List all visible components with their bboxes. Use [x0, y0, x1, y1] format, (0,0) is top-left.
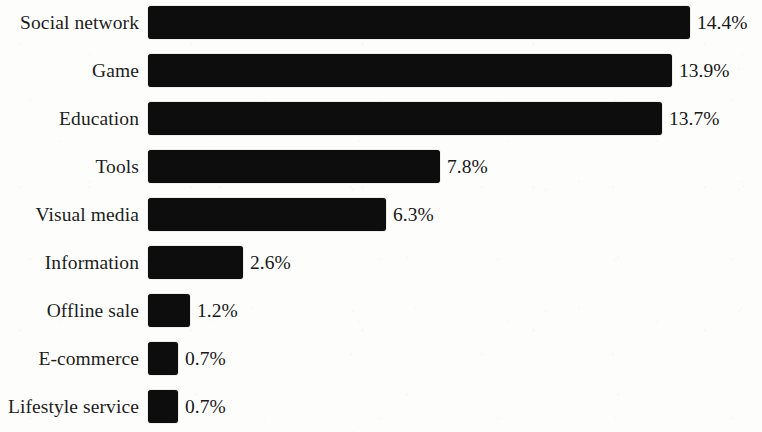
bar-track: 7.8%	[148, 150, 762, 183]
category-label: Social network	[0, 13, 148, 33]
bar-row: Lifestyle service0.7%	[0, 390, 762, 423]
category-label: Information	[0, 253, 148, 273]
bar	[148, 342, 178, 375]
bar-value-label: 13.7%	[662, 109, 719, 129]
bar-track: 0.7%	[148, 390, 762, 423]
bar-value-label: 7.8%	[440, 157, 488, 177]
bar-row: Social network14.4%	[0, 6, 762, 39]
bar-value-label: 0.7%	[178, 397, 226, 417]
bar-track: 6.3%	[148, 198, 762, 231]
bar-track: 14.4%	[148, 6, 762, 39]
bar-row: Tools7.8%	[0, 150, 762, 183]
bar-row: Visual media6.3%	[0, 198, 762, 231]
category-label: Tools	[0, 157, 148, 177]
bar-row: Education13.7%	[0, 102, 762, 135]
bar-value-label: 13.9%	[672, 61, 729, 81]
bar	[148, 6, 690, 39]
category-label: Education	[0, 109, 148, 129]
bar-row: E-commerce0.7%	[0, 342, 762, 375]
bar	[148, 294, 190, 327]
bar	[148, 198, 386, 231]
bar-track: 1.2%	[148, 294, 762, 327]
bar-value-label: 0.7%	[178, 349, 226, 369]
bar-track: 2.6%	[148, 246, 762, 279]
bar-value-label: 6.3%	[386, 205, 434, 225]
category-label: Visual media	[0, 205, 148, 225]
category-label: Offline sale	[0, 301, 148, 321]
bar	[148, 246, 243, 279]
category-label: Game	[0, 61, 148, 81]
bar	[148, 54, 672, 87]
category-label: Lifestyle service	[0, 397, 148, 417]
bar	[148, 102, 662, 135]
bar	[148, 390, 178, 423]
bar-track: 13.9%	[148, 54, 762, 87]
category-label: E-commerce	[0, 349, 148, 369]
bar-track: 13.7%	[148, 102, 762, 135]
bar-value-label: 1.2%	[190, 301, 238, 321]
bar-row: Offline sale1.2%	[0, 294, 762, 327]
horizontal-bar-chart: Social network14.4%Game13.9%Education13.…	[0, 0, 762, 432]
bar-row: Information2.6%	[0, 246, 762, 279]
bar-value-label: 14.4%	[690, 13, 747, 33]
bar-track: 0.7%	[148, 342, 762, 375]
bar	[148, 150, 440, 183]
bar-row: Game13.9%	[0, 54, 762, 87]
bar-value-label: 2.6%	[243, 253, 291, 273]
